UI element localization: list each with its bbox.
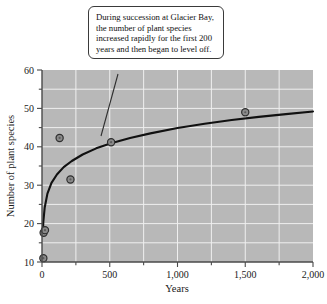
x-tick-label: 1,000 xyxy=(166,269,189,280)
callout-text: During succession at Glacier Bay, the nu… xyxy=(96,12,217,54)
y-tick-label: 10 xyxy=(24,257,34,268)
data-point xyxy=(242,109,249,116)
data-point xyxy=(56,134,63,141)
y-axis-title: Number of plant species xyxy=(5,115,16,217)
y-tick-label: 60 xyxy=(24,65,34,76)
x-axis-title: Years xyxy=(165,283,188,294)
y-tick-label: 30 xyxy=(24,180,34,191)
y-tick-label: 20 xyxy=(24,218,34,229)
chart-figure: 102030405060 05001,0001,5002,000 Years N… xyxy=(0,0,327,304)
data-point xyxy=(67,176,74,183)
x-tick-label: 1,500 xyxy=(234,269,257,280)
x-axis-ticks xyxy=(42,262,313,267)
data-point xyxy=(108,139,115,146)
y-axis-tick-labels: 102030405060 xyxy=(24,65,34,268)
callout-box: During succession at Glacier Bay, the nu… xyxy=(88,6,224,59)
x-axis-tick-labels: 05001,0001,5002,000 xyxy=(40,269,325,280)
x-tick-label: 2,000 xyxy=(302,269,325,280)
data-point xyxy=(40,255,47,262)
y-tick-label: 40 xyxy=(24,141,34,152)
x-tick-label: 500 xyxy=(102,269,117,280)
y-tick-label: 50 xyxy=(24,103,34,114)
x-tick-label: 0 xyxy=(40,269,45,280)
